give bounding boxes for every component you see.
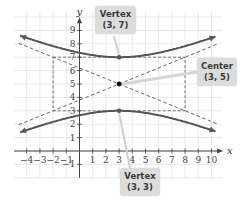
grid	[14, 12, 222, 178]
callout-title: Vertex	[97, 9, 134, 20]
callout-coords: (3, 3)	[122, 182, 158, 193]
svg-text:9: 9	[195, 155, 201, 165]
callout-coords: (3, 5)	[199, 72, 235, 83]
svg-text:1: 1	[70, 133, 76, 143]
svg-text:7: 7	[70, 52, 76, 62]
svg-text:4: 4	[70, 92, 76, 102]
svg-text:−3: −3	[33, 155, 47, 165]
svg-text:5: 5	[70, 79, 76, 89]
svg-text:7: 7	[169, 155, 175, 165]
svg-text:6: 6	[70, 66, 76, 76]
svg-text:2: 2	[70, 119, 76, 129]
svg-text:5: 5	[143, 155, 149, 165]
svg-text:y: y	[76, 6, 83, 17]
svg-text:3: 3	[116, 155, 122, 165]
svg-text:6: 6	[156, 155, 162, 165]
callout-bottom-vertex: Vertex (3, 3)	[120, 168, 160, 196]
svg-text:2: 2	[103, 155, 109, 165]
svg-text:10: 10	[206, 155, 218, 165]
svg-text:−2: −2	[46, 155, 59, 165]
callout-coords: (3, 7)	[97, 20, 134, 31]
svg-text:x: x	[227, 145, 233, 156]
svg-text:3: 3	[70, 106, 76, 116]
callout-top-vertex: Vertex (3, 7)	[95, 6, 136, 34]
svg-text:8: 8	[70, 39, 76, 49]
svg-text:1: 1	[90, 155, 96, 165]
svg-text:8: 8	[182, 155, 188, 165]
svg-text:−4: −4	[20, 155, 34, 165]
svg-text:9: 9	[70, 25, 76, 35]
callout-center: Center (3, 5)	[197, 58, 237, 86]
callout-title: Vertex	[122, 171, 158, 182]
svg-text:4: 4	[129, 155, 135, 165]
callout-leaders	[114, 36, 197, 168]
svg-text:−1: −1	[62, 159, 75, 169]
callout-title: Center	[199, 61, 235, 72]
